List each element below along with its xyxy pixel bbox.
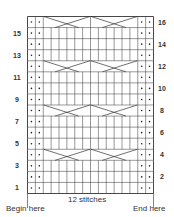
purl-dot-icon [149,110,151,112]
purl-dot-icon [149,99,151,101]
row-number-6: 6 [157,129,167,136]
purl-dot-icon [39,110,41,112]
purl-dot-icon [39,143,41,145]
row-number-7: 7 [12,118,22,125]
purl-dot-icon [39,88,41,90]
purl-dot-icon [149,77,151,79]
row-number-4: 4 [157,151,167,158]
purl-dot-icon [149,32,151,34]
purl-dot-icon [149,187,151,189]
row-number-5: 5 [12,140,22,147]
purl-dot-icon [39,54,41,56]
purl-dot-icon [149,43,151,45]
row-number-13: 13 [12,52,22,59]
purl-dot-icon [31,165,33,167]
repeat-label: 12 stitches [68,196,106,204]
cable-cross-icon [44,149,90,160]
row-number-10: 10 [157,85,167,92]
purl-dot-icon [31,99,33,101]
cable-cross-icon [91,17,137,28]
row-number-15: 15 [12,30,22,37]
purl-dot-icon [39,187,41,189]
purl-dot-icon [149,143,151,145]
purl-dot-icon [39,165,41,167]
purl-dot-icon [39,176,41,178]
begin-here-label: Begin here [6,205,45,213]
cable-cross-icon [91,149,137,160]
knitting-chart-grid [0,0,174,217]
purl-dot-icon [141,65,143,67]
purl-dot-icon [141,32,143,34]
cable-cross-icon [44,105,90,116]
purl-dot-icon [39,99,41,101]
row-number-12: 12 [157,63,167,70]
purl-dot-icon [39,21,41,23]
row-number-8: 8 [157,107,167,114]
row-number-2: 2 [157,173,167,180]
cable-cross-icon [91,61,137,72]
row-number-9: 9 [12,96,22,103]
purl-dot-icon [149,21,151,23]
cable-cross-icon [44,61,90,72]
purl-dot-icon [39,77,41,79]
purl-dot-icon [31,65,33,67]
purl-dot-icon [149,65,151,67]
purl-dot-icon [149,176,151,178]
purl-dot-icon [31,43,33,45]
purl-dot-icon [31,32,33,34]
row-number-16: 16 [157,19,167,26]
purl-dot-icon [31,132,33,134]
purl-dot-icon [31,121,33,123]
purl-dot-icon [141,88,143,90]
purl-dot-icon [149,54,151,56]
purl-dot-icon [141,99,143,101]
purl-dot-icon [149,154,151,156]
purl-dot-icon [141,54,143,56]
purl-dot-icon [39,32,41,34]
purl-dot-icon [31,110,33,112]
cable-cross-icon [91,105,137,116]
purl-dot-icon [141,110,143,112]
purl-dot-icon [141,143,143,145]
cable-cross-icon [44,17,90,28]
purl-dot-icon [31,88,33,90]
purl-dot-icon [149,132,151,134]
purl-dot-icon [39,132,41,134]
purl-dot-icon [31,176,33,178]
purl-dot-icon [141,132,143,134]
purl-dot-icon [141,154,143,156]
purl-dot-icon [31,21,33,23]
purl-dot-icon [141,121,143,123]
purl-dot-icon [39,43,41,45]
purl-dot-icon [39,121,41,123]
purl-dot-icon [149,88,151,90]
purl-dot-icon [141,165,143,167]
row-number-1: 1 [12,184,22,191]
purl-dot-icon [31,154,33,156]
purl-dot-icon [149,121,151,123]
row-number-11: 11 [12,74,22,81]
purl-dot-icon [39,154,41,156]
purl-dot-icon [149,165,151,167]
purl-dot-icon [31,54,33,56]
row-number-3: 3 [12,162,22,169]
row-number-14: 14 [157,41,167,48]
purl-dot-icon [31,77,33,79]
purl-dot-icon [141,43,143,45]
purl-dot-icon [141,21,143,23]
purl-dot-icon [31,187,33,189]
purl-dot-icon [31,143,33,145]
purl-dot-icon [141,187,143,189]
purl-dot-icon [141,77,143,79]
end-here-label: End here [133,205,165,213]
purl-dot-icon [39,65,41,67]
purl-dot-icon [141,176,143,178]
